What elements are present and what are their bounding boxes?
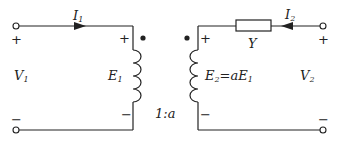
e2-plus-sign: + [200, 31, 211, 46]
turns-ratio-label: 1:a [155, 106, 175, 121]
secondary-coil-icon [190, 50, 198, 102]
i2-arrow-icon [281, 22, 293, 30]
e2-minus-sign: − [200, 107, 211, 122]
primary-polarity-dot-icon [140, 35, 145, 40]
secondary-polarity-dot-icon [184, 35, 189, 40]
v2-minus-sign: − [318, 112, 329, 127]
admittance-box [236, 20, 271, 31]
terminal-top-right [320, 23, 326, 29]
e2-equation-label: E2=aE1 [204, 68, 253, 84]
v1-label: V1 [14, 68, 28, 84]
e1-minus-sign: − [121, 107, 132, 122]
v2-label: V2 [300, 68, 314, 84]
terminal-bottom-left [13, 127, 19, 133]
i1-label: I1 [72, 8, 83, 24]
e1-label: E1 [107, 68, 123, 84]
e1-plus-sign: + [119, 31, 130, 46]
terminal-top-left [13, 23, 19, 29]
v2-plus-sign: + [318, 32, 329, 47]
v1-plus-sign: + [11, 32, 22, 47]
primary-coil-icon [133, 50, 141, 102]
transformer-circuit: + − + − + − + − I1 I2 V1 V2 E1 E2=aE1 Y … [0, 0, 340, 147]
admittance-label: Y [248, 36, 258, 51]
i2-label: I2 [284, 7, 295, 23]
terminal-bottom-right [320, 127, 326, 133]
v1-minus-sign: − [11, 112, 22, 127]
